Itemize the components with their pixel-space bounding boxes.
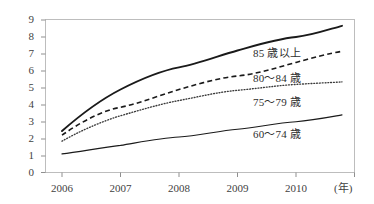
x-tick-label-2007: 2007 xyxy=(98,183,144,194)
series-label-85-and-over: 85 歳以上 xyxy=(253,47,301,59)
line-chart: 9 8 7 6 5 4 3 2 1 0 2006 2007 2008 2009 … xyxy=(0,0,374,204)
series-label-75-79: 75〜79 歳 xyxy=(253,96,301,108)
x-axis-ticks xyxy=(62,173,355,178)
y-tick-label-2: 2 xyxy=(18,133,34,144)
y-tick-label-7: 7 xyxy=(18,48,34,59)
y-tick-label-8: 8 xyxy=(18,31,34,42)
series-label-80-84: 80〜84 歳 xyxy=(253,72,301,84)
x-axis-unit-label: (年) xyxy=(334,183,352,194)
y-tick-label-3: 3 xyxy=(18,116,34,127)
y-tick-label-6: 6 xyxy=(18,65,34,76)
y-tick-label-1: 1 xyxy=(18,150,34,161)
y-tick-label-5: 5 xyxy=(18,82,34,93)
chart-canvas xyxy=(0,0,374,204)
y-tick-label-0: 0 xyxy=(18,167,34,178)
y-tick-label-4: 4 xyxy=(18,99,34,110)
x-tick-label-2009: 2009 xyxy=(215,183,261,194)
x-tick-label-2010: 2010 xyxy=(273,183,319,194)
x-tick-label-2006: 2006 xyxy=(39,183,85,194)
series-label-60-74: 60〜74 歳 xyxy=(253,128,301,140)
y-tick-label-9: 9 xyxy=(18,14,34,25)
x-tick-label-2008: 2008 xyxy=(156,183,202,194)
y-axis-ticks xyxy=(41,20,46,173)
